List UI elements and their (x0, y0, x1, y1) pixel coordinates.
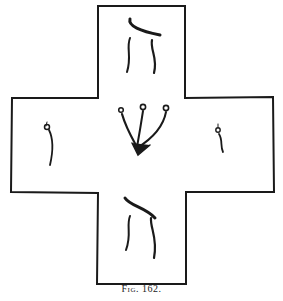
letter-he-top (127, 19, 160, 73)
letter-yod-left (45, 122, 53, 165)
letter-shin-center (119, 104, 169, 155)
letter-he-bottom (125, 198, 155, 258)
figure-caption: Fig. 162. (0, 283, 283, 294)
cross-figure (0, 0, 283, 301)
letter-vav-right (216, 124, 223, 152)
